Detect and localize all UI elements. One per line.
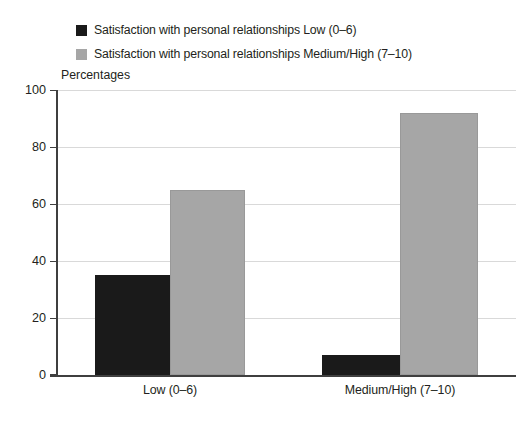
legend-item-low[interactable]: Satisfaction with personal relationships… bbox=[76, 18, 506, 42]
legend-swatch-icon-low bbox=[76, 25, 87, 36]
plot-area bbox=[56, 90, 516, 375]
y-axis-tick-labels: 100 80 60 40 20 0 bbox=[0, 90, 46, 375]
gridline-100 bbox=[56, 90, 516, 91]
y-tick-label-0: 0 bbox=[6, 368, 46, 382]
legend-item-medium-high[interactable]: Satisfaction with personal relationships… bbox=[76, 42, 506, 66]
y-tick-label-100: 100 bbox=[6, 83, 46, 97]
x-category-label-low: Low (0–6) bbox=[143, 383, 197, 397]
y-axis-line bbox=[56, 90, 58, 375]
y-tick-label-80: 80 bbox=[6, 140, 46, 154]
x-category-label-medium-high: Medium/High (7–10) bbox=[345, 383, 455, 397]
bar-medium-high-series-medium-high[interactable] bbox=[400, 113, 478, 375]
y-axis-title: Percentages bbox=[61, 68, 130, 82]
legend-swatch-icon-medium-high bbox=[76, 49, 87, 60]
x-axis-line bbox=[50, 375, 516, 377]
x-axis-category-labels: Low (0–6) Medium/High (7–10) bbox=[56, 383, 516, 407]
legend-label-medium-high: Satisfaction with personal relationships… bbox=[94, 47, 412, 61]
legend-label-low: Satisfaction with personal relationships… bbox=[94, 23, 357, 37]
y-tick-label-20: 20 bbox=[6, 311, 46, 325]
bar-medium-high-series-low[interactable] bbox=[322, 355, 400, 375]
chart-legend: Satisfaction with personal relationships… bbox=[76, 18, 506, 66]
bar-chart: Satisfaction with personal relationships… bbox=[0, 0, 529, 424]
y-tick-label-60: 60 bbox=[6, 197, 46, 211]
y-tick-label-40: 40 bbox=[6, 254, 46, 268]
bar-low-series-low[interactable] bbox=[95, 275, 170, 375]
bar-low-series-medium-high[interactable] bbox=[170, 190, 245, 375]
